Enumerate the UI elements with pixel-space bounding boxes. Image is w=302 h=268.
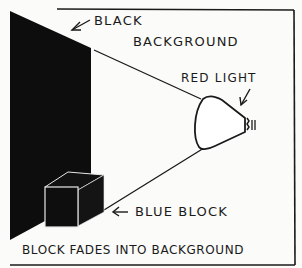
red-light-bulb: [195, 96, 255, 149]
diagram-canvas: BLACK BACKGROUND RED LIGHT BLUE BLOCK BL…: [0, 0, 302, 268]
red-light-label: RED LIGHT: [181, 71, 257, 85]
black-background-label-line2: BACKGROUND: [133, 34, 239, 49]
caption-label: BLOCK FADES INTO BACKGROUND: [22, 243, 244, 257]
red-light-arrow: [240, 89, 250, 105]
black-background-arrow: [72, 20, 90, 30]
black-background-label-line1: BLACK: [94, 13, 143, 28]
blue-block-label: BLUE BLOCK: [135, 204, 228, 219]
blue-block-arrow: [113, 207, 128, 216]
